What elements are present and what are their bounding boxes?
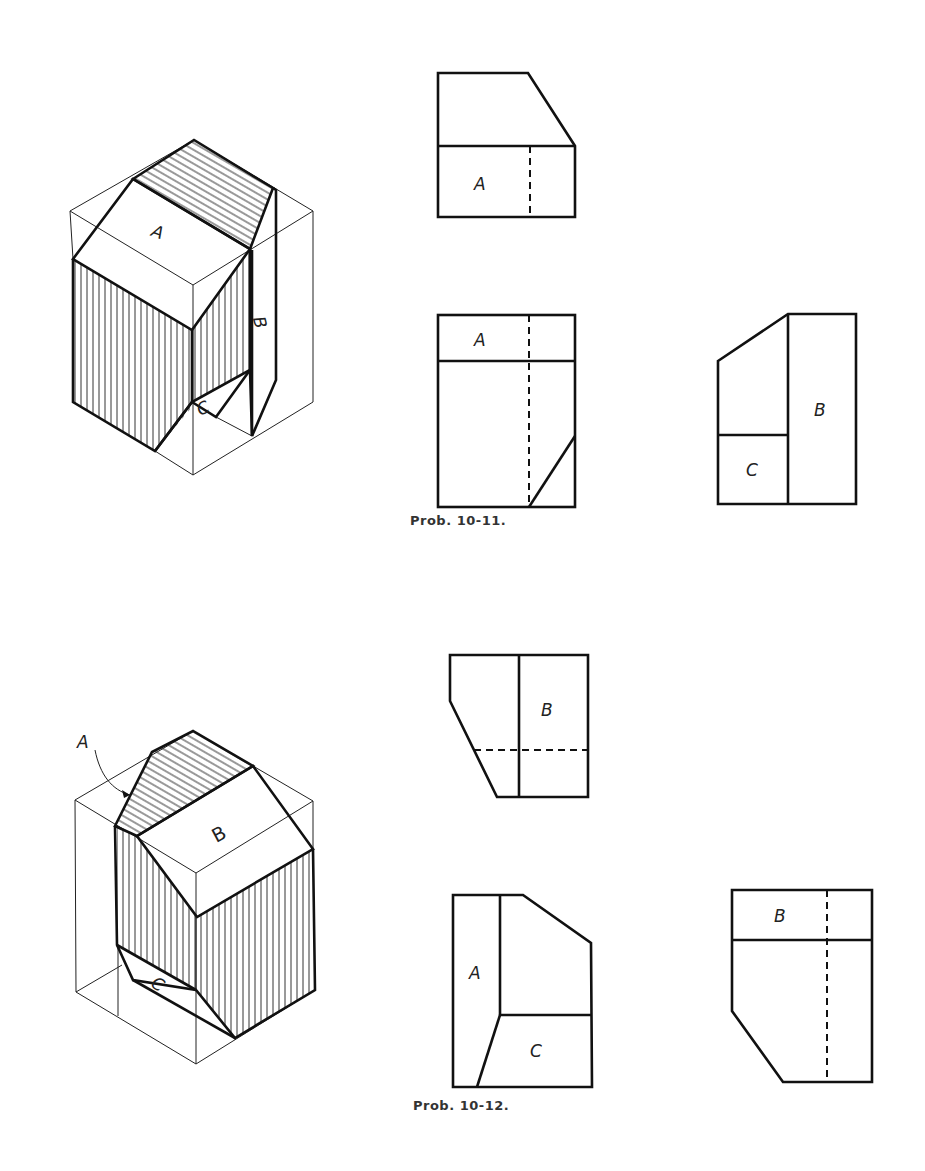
hatched-face-left xyxy=(117,826,196,990)
prob-10-12-pictorial: A B C xyxy=(75,731,315,1064)
front-view-label-a: A xyxy=(473,330,486,350)
leader-arrow xyxy=(95,750,130,795)
hatched-face-right xyxy=(196,849,315,1038)
surface-label-c: C xyxy=(193,396,212,419)
prob-10-11-top-view: A xyxy=(438,73,575,217)
prob-10-12-side-view: B xyxy=(732,890,872,1082)
caption-prob-10-12: Prob. 10-12. xyxy=(413,1098,509,1113)
top-view-label-a: A xyxy=(473,174,486,194)
front-view-label-c: C xyxy=(530,1041,542,1061)
leader-label-a: A xyxy=(76,732,89,752)
prob-10-12-front-view: A C xyxy=(453,895,592,1087)
prob-10-11-side-view: B C xyxy=(718,314,856,504)
side-view-label-b: B xyxy=(814,400,826,420)
front-view-label-a: A xyxy=(468,963,481,983)
surface-label-b: B xyxy=(208,821,230,847)
drawing-canvas: A B C A A B C xyxy=(0,0,925,1171)
side-view-label-b: B xyxy=(774,906,786,926)
surface-label-a: A xyxy=(148,220,167,243)
hatched-face-right xyxy=(192,249,250,402)
prob-10-11-pictorial: A B C xyxy=(70,140,313,475)
caption-prob-10-11: Prob. 10-11. xyxy=(410,513,506,528)
hatched-face-left xyxy=(73,259,192,451)
top-view-label-b: B xyxy=(541,700,553,720)
side-view-label-c: C xyxy=(746,460,758,480)
prob-10-12-top-view: B xyxy=(450,655,588,797)
prob-10-11-front-view: A xyxy=(438,315,575,507)
